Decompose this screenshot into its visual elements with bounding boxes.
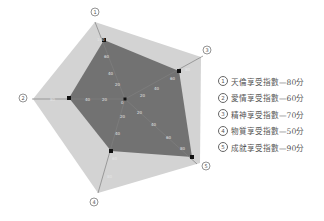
legend-item: 2 愛情享受指數—60分 xyxy=(218,90,324,107)
svg-text:20: 20 xyxy=(120,114,126,119)
svg-text:60: 60 xyxy=(166,135,172,140)
radar-chart: 0 20 40 60 100 20 40 60 80 20 40 60 80 2… xyxy=(0,0,230,221)
axis-marker-3: 3 xyxy=(203,46,211,54)
svg-text:80: 80 xyxy=(107,174,113,179)
svg-text:80: 80 xyxy=(180,146,186,151)
legend-item: 1 天倫享受指數—80分 xyxy=(218,73,324,90)
svg-text:40: 40 xyxy=(85,97,91,102)
svg-text:20: 20 xyxy=(140,93,146,98)
svg-text:100: 100 xyxy=(97,37,105,42)
axis-marker-2: 2 xyxy=(19,94,27,102)
svg-text:20: 20 xyxy=(137,110,143,115)
legend-label: 精神享受指數—70分 xyxy=(231,109,304,120)
svg-text:80: 80 xyxy=(50,97,56,102)
legend-label: 天倫享受指數—80分 xyxy=(231,76,304,87)
svg-text:60: 60 xyxy=(104,54,110,59)
svg-text:40: 40 xyxy=(151,122,157,127)
legend-label: 成就享受指數—90分 xyxy=(231,142,304,153)
legend-marker-5: 5 xyxy=(218,142,228,152)
legend-marker-2: 2 xyxy=(218,93,228,103)
axis-marker-5: 5 xyxy=(202,162,210,170)
legend-label: 愛情享受指數—60分 xyxy=(231,92,304,103)
legend-item: 4 物質享受指數—50分 xyxy=(218,123,324,140)
svg-text:20: 20 xyxy=(102,97,108,102)
legend-marker-1: 1 xyxy=(218,76,228,86)
svg-text:3: 3 xyxy=(205,47,208,53)
svg-text:5: 5 xyxy=(204,163,207,169)
legend-marker-4: 4 xyxy=(218,126,228,136)
svg-text:4: 4 xyxy=(92,199,95,205)
axis-marker-1: 1 xyxy=(91,8,99,16)
svg-text:60: 60 xyxy=(112,156,118,161)
svg-text:40: 40 xyxy=(108,71,114,76)
svg-text:40: 40 xyxy=(154,86,160,91)
svg-text:20: 20 xyxy=(115,82,121,87)
svg-text:80: 80 xyxy=(185,67,191,72)
chart-legend: 1 天倫享受指數—80分 2 愛情享受指數—60分 3 精神享受指數—70分 4… xyxy=(218,73,324,156)
svg-text:40: 40 xyxy=(115,131,121,136)
legend-label: 物質享受指數—50分 xyxy=(231,125,304,136)
center-point xyxy=(124,98,127,101)
legend-item: 3 精神享受指數—70分 xyxy=(218,106,324,123)
axis-marker-4: 4 xyxy=(90,198,98,206)
svg-text:60: 60 xyxy=(170,76,176,81)
svg-text:2: 2 xyxy=(21,95,24,101)
svg-text:1: 1 xyxy=(93,9,96,15)
legend-marker-3: 3 xyxy=(218,109,228,119)
legend-item: 5 成就享受指數—90分 xyxy=(218,139,324,156)
